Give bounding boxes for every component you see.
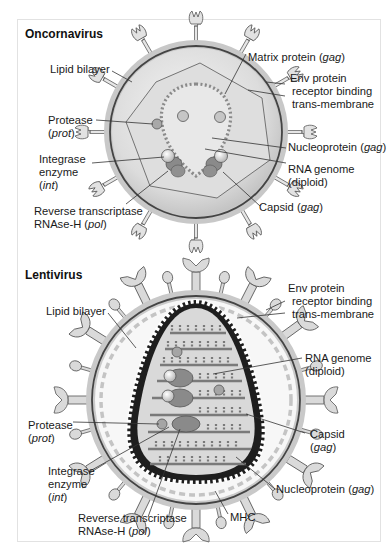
label-reverse-transcriptase: Reverse transcriptase: [78, 512, 187, 524]
label-lipid-bilayer: Lipid bilayer: [50, 63, 110, 75]
label-rna-diploid: (diploid): [305, 365, 345, 377]
label-mhc: MHC: [230, 511, 255, 523]
label-env-protein: Env protein: [288, 282, 345, 294]
label-trans-membrane: trans-membrane: [292, 308, 374, 320]
label-protease: Protease: [28, 419, 73, 431]
label-rna-genome: RNA genome: [305, 352, 372, 364]
label-integrase-enzyme: enzyme: [39, 166, 78, 178]
label-env-protein: Env protein: [290, 72, 347, 84]
protease-particle: [152, 119, 162, 129]
label-protease-gene: (prot): [28, 432, 55, 444]
label-integrase-enzyme: enzyme: [48, 478, 87, 490]
label-capsid: Capsid: [310, 428, 345, 440]
label-receptor-binding: receptor binding: [292, 85, 372, 97]
oncornavirus-title: Oncornavirus: [25, 27, 103, 41]
label-protease-gene: (prot): [48, 127, 75, 139]
label-integrase-gene: (int): [48, 491, 68, 503]
lentivirus-panel: Lentivirus: [25, 258, 375, 542]
label-lipid-bilayer: Lipid bilayer: [46, 305, 106, 317]
label-integrase: Integrase: [48, 465, 95, 477]
label-rna-genome: RNA genome: [288, 163, 355, 175]
integrase-particle: [162, 150, 175, 163]
label-protease: Protease: [48, 114, 93, 126]
label-nucleoprotein: Nucleoprotein (gag): [288, 141, 387, 153]
label-integrase: Integrase: [39, 153, 86, 165]
label-rna-diploid: (diploid): [288, 176, 328, 188]
label-capsid: Capsid (gag): [259, 201, 323, 213]
lentivirus-title: Lentivirus: [25, 268, 83, 282]
label-integrase-gene: (int): [39, 179, 59, 191]
label-reverse-transcriptase: Reverse transcriptase: [34, 205, 143, 217]
oncornavirus-panel: Oncornavirus: [25, 11, 387, 253]
label-rnase-h: RNAse-H (pol): [34, 218, 107, 230]
label-trans-membrane: trans-membrane: [292, 98, 374, 110]
label-nucleoprotein: Nucleoprotein (gag): [276, 483, 375, 495]
label-rnase-h: RNAse-H (pol): [78, 525, 151, 537]
virus-diagram: Oncornavirus: [0, 0, 392, 553]
label-capsid-gene: (gag): [310, 441, 336, 453]
label-receptor-binding: receptor binding: [292, 295, 372, 307]
label-matrix-protein: Matrix protein (gag): [248, 51, 345, 63]
